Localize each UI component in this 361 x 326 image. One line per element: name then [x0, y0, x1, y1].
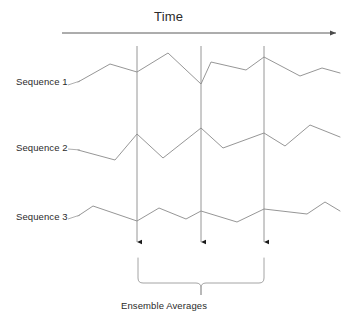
time-axis-label: Time	[154, 10, 183, 23]
ensemble-brace-icon	[138, 258, 264, 295]
diagram-canvas	[0, 0, 361, 326]
sequence-3-label: Sequence 3	[16, 212, 68, 222]
sequence-waveforms	[78, 53, 340, 222]
sequence-2-waveform	[78, 125, 340, 160]
sampling-lines-group	[137, 46, 264, 242]
ensemble-averages-caption: Ensemble Averages	[121, 301, 207, 311]
ensemble-averages-diagram: Time Sequence 1 Sequence 2 Sequence 3 En…	[0, 0, 361, 326]
leader-line-seq-1	[68, 81, 80, 85]
sequence-1-label: Sequence 1	[16, 77, 68, 87]
leader-line-seq-2	[68, 149, 80, 150]
sequence-2-label: Sequence 2	[16, 143, 68, 153]
sequence-3-waveform	[78, 202, 340, 222]
leader-line-seq-3	[68, 215, 80, 219]
sequence-1-waveform	[78, 53, 340, 84]
label-leader-lines	[68, 81, 80, 219]
